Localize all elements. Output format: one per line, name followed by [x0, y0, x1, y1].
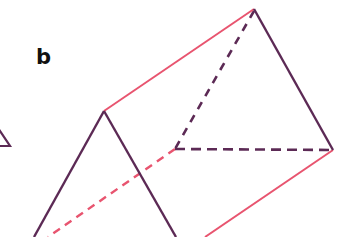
- back-base-hidden-edge: [175, 149, 333, 150]
- bottom-right-length-edge: [205, 150, 333, 237]
- back-left-hidden-edge: [175, 11, 254, 149]
- back-right-edge: [254, 9, 333, 150]
- partial-shape-left: [0, 128, 10, 146]
- bottom-left-hidden-length-edge: [48, 149, 175, 237]
- front-right-edge: [104, 111, 176, 237]
- top-length-edge: [104, 9, 254, 111]
- prism-diagram: b: [0, 0, 339, 237]
- figure-label: b: [36, 45, 51, 69]
- front-left-edge: [34, 111, 104, 237]
